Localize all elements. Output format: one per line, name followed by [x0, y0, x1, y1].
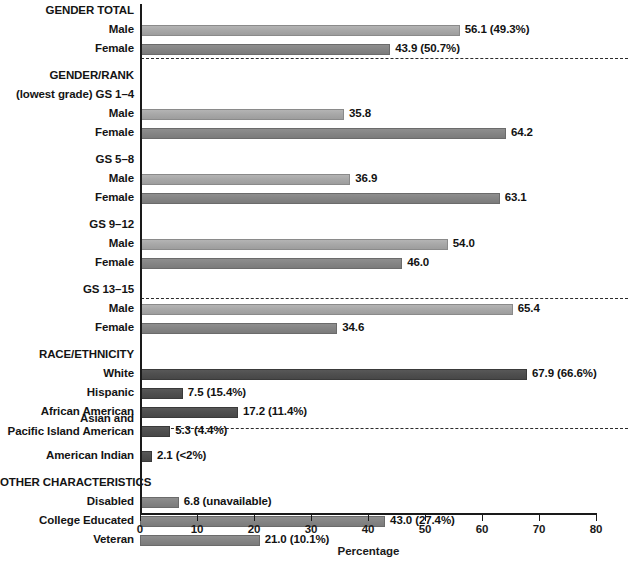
section-subheading: (lowest grade) GS 1–4 — [0, 88, 140, 100]
category-label: Disabled — [0, 495, 140, 507]
bar-value-label: 67.9 (66.6%) — [532, 367, 597, 379]
section-heading: GENDER/RANK — [0, 69, 140, 81]
category-label: American Indian — [0, 449, 140, 461]
bar-female — [140, 258, 402, 269]
x-tick-label: 60 — [476, 523, 489, 535]
x-tick-label: 10 — [191, 523, 204, 535]
bar-value-label: 63.1 — [505, 191, 527, 203]
bar-male — [140, 25, 460, 36]
section-subheading: GS 9–12 — [0, 218, 140, 230]
x-tick — [539, 515, 540, 521]
x-tick-label: 80 — [590, 523, 603, 535]
bar-male — [140, 304, 513, 315]
category-label: Male — [0, 107, 140, 119]
bar-value-label: 65.4 — [518, 302, 540, 314]
bar-value-label: 7.5 (15.4%) — [188, 386, 246, 398]
category-label: Male — [0, 23, 140, 35]
bar-value-label: 5.3 (4.4%) — [175, 424, 227, 436]
x-tick-label: 40 — [362, 523, 375, 535]
category-label: Asian andPacific Island American — [0, 412, 140, 437]
bar-value-label: 17.2 (11.4%) — [243, 405, 307, 417]
category-label: Hispanic — [0, 386, 140, 398]
category-label: Female — [0, 256, 140, 268]
bar-female — [140, 44, 390, 55]
x-tick-label: 30 — [305, 523, 318, 535]
section-heading: OTHER CHARACTERISTICS — [0, 476, 140, 488]
bar-value-label: 64.2 — [511, 126, 533, 138]
bar-value-label: 2.1 (<2%) — [157, 449, 206, 461]
category-label: Male — [0, 172, 140, 184]
x-tick-label: 20 — [248, 523, 261, 535]
category-label: Female — [0, 321, 140, 333]
bar-value-label: 54.0 — [453, 237, 475, 249]
bar-male — [140, 174, 350, 185]
bar-chart: GENDER TOTALMaleFemaleGENDER/RANK(lowest… — [0, 0, 629, 565]
bar-female — [140, 323, 337, 334]
section-separator-2 — [141, 298, 628, 299]
bar-value-label: 56.1 (49.3%) — [465, 23, 530, 35]
category-label: Female — [0, 191, 140, 203]
x-tick — [368, 515, 369, 521]
category-label: Female — [0, 42, 140, 54]
category-label: Male — [0, 302, 140, 314]
bar-female — [140, 128, 506, 139]
section-subheading: GS 5–8 — [0, 153, 140, 165]
bar-disabled — [140, 497, 179, 508]
bar-white — [140, 369, 527, 380]
bar-asian-and-pacific-island-american — [140, 426, 170, 437]
x-tick — [197, 515, 198, 521]
section-heading: RACE/ETHNICITY — [0, 348, 140, 360]
category-label: Male — [0, 237, 140, 249]
x-tick-label: 0 — [137, 523, 143, 535]
x-tick — [425, 515, 426, 521]
bar-male — [140, 239, 448, 250]
bar-value-label: 36.9 — [355, 172, 377, 184]
x-tick — [140, 515, 141, 521]
x-tick — [311, 515, 312, 521]
section-separator-1 — [141, 58, 628, 59]
bar-value-label: 43.9 (50.7%) — [395, 42, 460, 54]
y-axis-line — [140, 4, 142, 514]
bar-hispanic — [140, 388, 183, 399]
bar-male — [140, 109, 344, 120]
bar-value-label: 35.8 — [349, 107, 371, 119]
bar-value-label: 34.6 — [342, 321, 364, 333]
bar-value-label: 21.0 (10.1%) — [265, 533, 330, 545]
bar-value-label: 46.0 — [407, 256, 429, 268]
x-tick — [482, 515, 483, 521]
bar-college-educated — [140, 516, 385, 527]
x-tick-label: 50 — [419, 523, 432, 535]
bar-value-label: 6.8 (unavailable) — [184, 495, 272, 507]
category-label: Female — [0, 126, 140, 138]
section-heading: GENDER TOTAL — [0, 4, 140, 16]
x-tick — [596, 515, 597, 521]
category-label: College Educated — [0, 514, 140, 526]
category-label: White — [0, 367, 140, 379]
bar-female — [140, 193, 500, 204]
x-tick — [254, 515, 255, 521]
bar-african-american — [140, 407, 238, 418]
section-subheading: GS 13–15 — [0, 283, 140, 295]
category-label: Veteran — [0, 533, 140, 545]
x-axis-title: Percentage — [140, 545, 597, 557]
x-tick-label: 70 — [533, 523, 546, 535]
